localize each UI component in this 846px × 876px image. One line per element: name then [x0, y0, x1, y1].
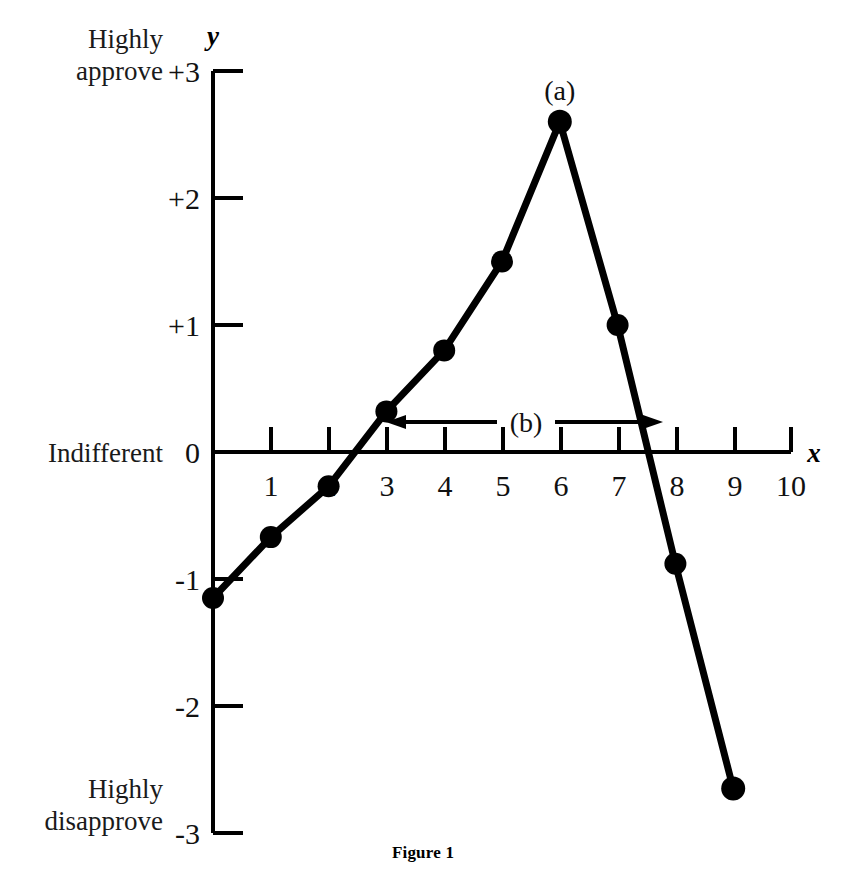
- x-tick-label-5: 5: [496, 469, 511, 502]
- data-point-marker[interactable]: [260, 526, 282, 548]
- data-point-marker[interactable]: [375, 400, 397, 422]
- y-tick-label-zero: 0: [185, 436, 200, 469]
- figure-caption: Figure 1: [0, 843, 846, 863]
- y-scale-label-bottom-line1: Highly: [88, 774, 164, 804]
- x-tick-label-7: 7: [612, 469, 627, 502]
- annotation-b-arrow: (b): [386, 407, 663, 438]
- data-point-marker[interactable]: [607, 314, 629, 336]
- x-tick-label-1: 1: [264, 469, 279, 502]
- annotation-a-label: (a): [544, 75, 575, 106]
- y-scale-label-top-line2: approve: [76, 56, 163, 86]
- x-tick-label-4: 4: [438, 469, 453, 502]
- x-tick-label-10: 10: [776, 469, 806, 502]
- y-tick-label-plus2: +2: [168, 182, 200, 215]
- approval-line-chart: Highly approve Indifferent Highly disapp…: [0, 0, 846, 876]
- data-point-marker[interactable]: [721, 777, 745, 801]
- y-tick-label-plus3: +3: [168, 55, 200, 88]
- data-series-line: [213, 122, 733, 789]
- data-point-marker[interactable]: [433, 339, 455, 361]
- y-axis-variable-label: y: [204, 21, 220, 51]
- x-tick-label-3: 3: [380, 469, 395, 502]
- data-point-marker[interactable]: [318, 475, 340, 497]
- y-scale-label-top-line1: Highly: [88, 24, 164, 54]
- data-point-marker[interactable]: [664, 553, 686, 575]
- y-scale-label-middle: Indifferent: [48, 438, 163, 468]
- y-scale-label-bottom-line2: disapprove: [45, 806, 163, 836]
- y-tick-label-plus1: +1: [168, 309, 200, 342]
- x-tick-label-9: 9: [728, 469, 743, 502]
- x-tick-label-8: 8: [670, 469, 685, 502]
- annotation-b-right-arrowhead: [643, 415, 663, 429]
- figure-container: Highly approve Indifferent Highly disapp…: [0, 0, 846, 876]
- x-tick-label-6: 6: [554, 469, 569, 502]
- y-tick-label-minus2: -2: [175, 690, 200, 723]
- data-point-marker[interactable]: [202, 587, 224, 609]
- data-point-marker-peak[interactable]: [548, 110, 572, 134]
- x-axis-variable-label: x: [806, 438, 821, 468]
- y-tick-label-minus1: -1: [175, 563, 200, 596]
- annotation-b-label: (b): [510, 407, 543, 438]
- data-point-marker[interactable]: [491, 251, 513, 273]
